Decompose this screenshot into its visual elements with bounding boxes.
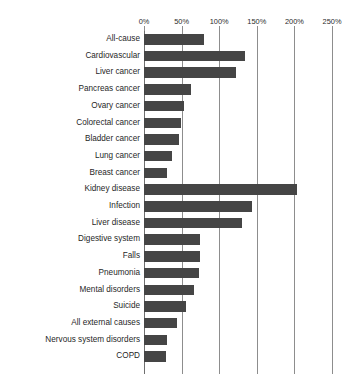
bar-liver-cancer — [144, 67, 236, 78]
category-label-all-external-causes: All external causes — [71, 315, 144, 332]
category-label-copd: COPD — [116, 348, 144, 365]
bar-kidney-disease — [144, 184, 297, 195]
category-label-all-cause: All-cause — [106, 31, 144, 48]
bar-all-cause — [144, 34, 204, 45]
bar-breast-cancer — [144, 168, 167, 179]
bar-liver-disease — [144, 218, 242, 229]
bar-row: Pneumonia — [0, 265, 357, 282]
bar-row: Liver disease — [0, 215, 357, 232]
category-label-suicide: Suicide — [113, 298, 144, 315]
bar-suicide — [144, 301, 186, 312]
category-label-bladder-cancer: Bladder cancer — [85, 131, 144, 148]
bar-row: Kidney disease — [0, 181, 357, 198]
category-label-ovary-cancer: Ovary cancer — [91, 98, 144, 115]
bar-row: Pancreas cancer — [0, 81, 357, 98]
bar-digestive-system — [144, 234, 200, 245]
bar-row: Falls — [0, 248, 357, 265]
category-label-kidney-disease: Kidney disease — [84, 181, 144, 198]
bar-falls — [144, 251, 200, 262]
category-label-lung-cancer: Lung cancer — [95, 148, 144, 165]
bar-row: Bladder cancer — [0, 131, 357, 148]
bar-row: Nervous system disorders — [0, 332, 357, 349]
chart-title — [0, 0, 357, 3]
bar-row: Ovary cancer — [0, 98, 357, 115]
bar-row: Liver cancer — [0, 64, 357, 81]
bar-mental-disorders — [144, 285, 194, 296]
category-label-liver-cancer: Liver cancer — [95, 64, 144, 81]
bar-chart-figure: 0%50%100%150%200%250% All-causeCardiovas… — [0, 0, 357, 387]
bar-cardiovascular — [144, 51, 245, 62]
category-label-falls: Falls — [123, 248, 144, 265]
bar-colorectal-cancer — [144, 118, 181, 129]
bar-lung-cancer — [144, 151, 172, 162]
bar-row: Digestive system — [0, 231, 357, 248]
bar-pancreas-cancer — [144, 84, 191, 95]
bar-row: All-cause — [0, 31, 357, 48]
category-label-colorectal-cancer: Colorectal cancer — [76, 115, 144, 132]
category-label-pancreas-cancer: Pancreas cancer — [79, 81, 144, 98]
category-label-digestive-system: Digestive system — [78, 231, 144, 248]
category-label-nervous-system-disorders: Nervous system disorders — [45, 332, 144, 349]
category-rows: All-causeCardiovascularLiver cancerPancr… — [0, 31, 357, 374]
bar-infection — [144, 201, 252, 212]
category-label-breast-cancer: Breast cancer — [89, 165, 144, 182]
bar-bladder-cancer — [144, 134, 179, 145]
bar-row: Cardiovascular — [0, 48, 357, 65]
category-label-mental-disorders: Mental disorders — [79, 282, 144, 299]
bar-row: Breast cancer — [0, 165, 357, 182]
category-label-liver-disease: Liver disease — [92, 215, 144, 232]
category-label-pneumonia: Pneumonia — [99, 265, 144, 282]
bar-row: Suicide — [0, 298, 357, 315]
bar-row: Infection — [0, 198, 357, 215]
bar-nervous-system-disorders — [144, 335, 167, 346]
category-label-infection: Infection — [109, 198, 144, 215]
bar-all-external-causes — [144, 318, 177, 329]
bar-row: Colorectal cancer — [0, 115, 357, 132]
bar-row: Mental disorders — [0, 282, 357, 299]
bar-row: COPD — [0, 348, 357, 365]
bar-pneumonia — [144, 268, 199, 279]
bar-row: Lung cancer — [0, 148, 357, 165]
bar-row: All external causes — [0, 315, 357, 332]
bar-copd — [144, 351, 166, 362]
category-label-cardiovascular: Cardiovascular — [85, 48, 144, 65]
bar-ovary-cancer — [144, 101, 184, 112]
x-axis-tick-labels: 0%50%100%150%200%250% — [0, 17, 357, 27]
